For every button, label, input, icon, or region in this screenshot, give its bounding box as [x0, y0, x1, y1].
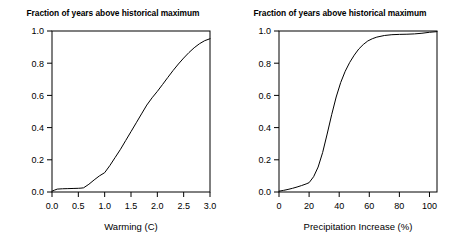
x-tick-label: 40 — [334, 201, 344, 211]
y-tick-label: 0.2 — [31, 155, 44, 165]
x-tick-label: 100 — [422, 201, 437, 211]
plot-area-warming: 0.00.20.40.60.81.00.00.51.01.52.02.53.0W… — [0, 0, 226, 250]
data-curve — [52, 39, 210, 191]
plot-frame — [279, 31, 437, 192]
x-tick-label: 0.0 — [46, 201, 59, 211]
y-tick-label: 1.0 — [31, 26, 44, 36]
y-tick-label: 0.0 — [258, 187, 271, 197]
data-curve — [279, 32, 437, 192]
y-tick-label: 1.0 — [258, 26, 271, 36]
x-tick-label: 2.5 — [177, 201, 190, 211]
y-tick-label: 0.6 — [31, 91, 44, 101]
y-tick-label: 0.6 — [258, 91, 271, 101]
x-axis-label: Precipitation Increase (%) — [304, 221, 413, 232]
y-tick-label: 0.2 — [258, 155, 271, 165]
y-tick-label: 0.8 — [258, 59, 271, 69]
figure-two-panel-line-charts: Fraction of years above historical maxim… — [0, 0, 453, 250]
y-tick-label: 0.4 — [31, 123, 44, 133]
x-tick-label: 80 — [394, 201, 404, 211]
chart-panel-warming: Fraction of years above historical maxim… — [0, 0, 226, 250]
x-tick-label: 60 — [364, 201, 374, 211]
x-axis-label: Warming (C) — [104, 221, 157, 232]
x-tick-label: 2.0 — [151, 201, 164, 211]
y-tick-label: 0.8 — [31, 59, 44, 69]
plot-area-precipitation: 0.00.20.40.60.81.0020406080100Precipitat… — [227, 0, 453, 250]
x-tick-label: 0.5 — [72, 201, 85, 211]
chart-panel-precipitation: Fraction of years above historical maxim… — [227, 0, 453, 250]
y-tick-label: 0.0 — [31, 187, 44, 197]
x-tick-label: 20 — [304, 201, 314, 211]
x-tick-label: 3.0 — [204, 201, 217, 211]
x-tick-label: 1.0 — [98, 201, 111, 211]
x-tick-label: 0 — [276, 201, 281, 211]
y-tick-label: 0.4 — [258, 123, 271, 133]
x-tick-label: 1.5 — [125, 201, 138, 211]
